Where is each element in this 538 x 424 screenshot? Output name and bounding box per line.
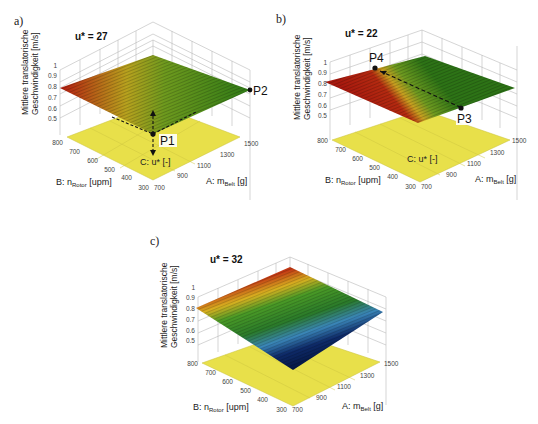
x-tick: 900 — [446, 171, 457, 178]
x-tick: 700 — [292, 406, 303, 413]
z-tick: 0.5 — [186, 337, 195, 344]
z-tick: 0.8 — [48, 83, 57, 90]
point-p4-label: P4 — [369, 51, 384, 65]
z-axis-label-line1: Mittlere translatorische — [20, 29, 30, 115]
y-tick: 400 — [387, 173, 398, 180]
y-tick: 800 — [187, 360, 198, 367]
x-axis-label: A: mBelt [g] — [206, 176, 247, 187]
point-p1-label: P1 — [160, 134, 175, 148]
chart-panel-c: u* = 32 Mittlere translatorische Geschwi… — [130, 220, 420, 424]
y-axis-label: B: nRotor [upm] — [325, 175, 381, 186]
panel-c-title: u* = 32 — [210, 254, 243, 265]
z-tick: 1 — [53, 62, 57, 69]
x-tick: 1300 — [220, 151, 235, 158]
chart-panel-b: P4 P3 u* = 22 Mittlere translatorische G… — [270, 0, 538, 215]
x-tick: 1300 — [490, 149, 505, 156]
x-axis-label: A: mBelt [g] — [342, 401, 383, 412]
z-axis-label-line2: Geschwindigkeit [m/s] — [169, 265, 179, 348]
panel-a-title: u* = 27 — [75, 31, 108, 42]
point-p3-label: P3 — [457, 112, 472, 126]
point-p3-marker — [458, 105, 463, 110]
x-tick: 1100 — [467, 160, 481, 167]
z-axis-label-line1: Mittlere translatorische — [159, 262, 169, 348]
y-tick: 700 — [205, 369, 216, 376]
point-p2-label: P2 — [253, 84, 268, 98]
point-p2-marker — [248, 88, 253, 93]
y-tick: 500 — [369, 164, 380, 171]
z-tick: 1 — [191, 284, 195, 291]
y-tick: 300 — [276, 406, 287, 413]
y-tick: 300 — [138, 184, 149, 191]
y-tick: 300 — [405, 183, 416, 190]
y-tick: 500 — [240, 387, 251, 394]
point-p4-marker — [372, 65, 377, 70]
z-tick: 0.9 — [318, 69, 327, 76]
z-tick: 0.7 — [318, 91, 327, 98]
z-tick: 0.7 — [186, 316, 195, 323]
x-tick: 1500 — [512, 137, 527, 144]
z-axis-label-line1: Mittlere translatorische — [292, 34, 302, 120]
y-tick: 800 — [317, 137, 328, 144]
z-axis-label-line2: Geschwindigkeit [m/s] — [302, 37, 312, 120]
x-tick: 1500 — [384, 360, 399, 367]
z-tick: 1 — [323, 59, 327, 66]
y-tick: 500 — [104, 166, 115, 173]
c-axis-label: C: u* [-] — [407, 154, 438, 164]
x-tick: 1100 — [197, 162, 211, 169]
panel-b-title: u* = 22 — [345, 28, 378, 39]
y-tick: 700 — [335, 146, 346, 153]
y-tick: 800 — [52, 139, 63, 146]
z-tick: 0.5 — [48, 115, 57, 122]
z-tick: 0.6 — [186, 327, 195, 334]
chart-panel-a: P1 P2 u* = 27 Mittlere translatorische G… — [0, 0, 270, 215]
point-p1-marker — [150, 131, 155, 136]
x-tick: 900 — [316, 394, 327, 401]
x-axis-label: A: mBelt [g] — [475, 174, 516, 185]
z-tick: 0.9 — [48, 72, 57, 79]
z-tick: 0.8 — [186, 305, 195, 312]
y-axis-label: B: nRotor [upm] — [56, 177, 112, 188]
z-tick: 0.7 — [48, 94, 57, 101]
y-tick: 400 — [121, 174, 132, 181]
y-tick: 700 — [69, 148, 80, 155]
z-tick: 0.9 — [186, 294, 195, 301]
z-tick: 0.8 — [318, 80, 327, 87]
x-tick: 700 — [154, 184, 165, 191]
y-tick: 400 — [257, 396, 268, 403]
x-tick: 1500 — [244, 140, 259, 147]
y-tick: 600 — [87, 157, 98, 164]
z-axis-label-line2: Geschwindigkeit [m/s] — [30, 32, 40, 115]
c-axis-label: C: u* [-] — [140, 157, 171, 167]
z-tick: 0.6 — [48, 105, 57, 112]
x-tick: 700 — [421, 183, 432, 190]
x-tick: 1100 — [337, 383, 351, 390]
y-tick: 600 — [352, 155, 363, 162]
x-tick: 1300 — [360, 372, 375, 379]
z-tick: 0.6 — [318, 102, 327, 109]
y-tick: 600 — [222, 378, 233, 385]
z-tick: 0.5 — [318, 112, 327, 119]
x-tick: 900 — [177, 172, 188, 179]
y-axis-label: B: nRotor [upm] — [193, 402, 249, 413]
